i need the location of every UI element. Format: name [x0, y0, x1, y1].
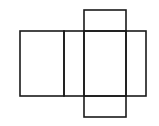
face-right — [126, 31, 146, 96]
box-net-diagram — [0, 0, 159, 126]
face-center — [84, 31, 126, 96]
face-left — [20, 31, 64, 96]
face-top — [84, 10, 126, 31]
diagram-canvas — [0, 0, 159, 126]
face-middle-left — [64, 31, 84, 96]
face-bottom — [84, 96, 126, 117]
